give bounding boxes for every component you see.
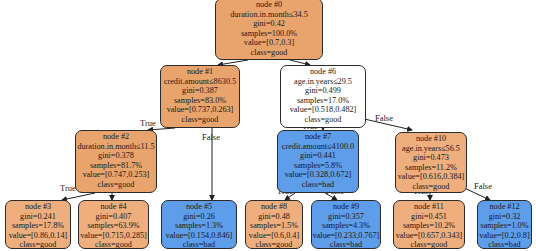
tree-node-6: node #6 age.in.years≤29.5 gini=0.499 sam… (280, 65, 366, 128)
node-class: class=good (394, 240, 464, 249)
tree-node-2: node #2 duration.in.month≤11.5 gini=0.37… (75, 130, 157, 193)
node-class: class=bad (312, 240, 380, 249)
node-gini: gini=0.407 (79, 212, 148, 222)
node-id: node #0 (216, 0, 322, 10)
node-id: node #11 (394, 202, 464, 212)
node-value: value=[0.154,0.846] (162, 231, 236, 241)
node-condition: credit.amount≤8630.5 (161, 77, 239, 87)
node-samples: samples=11.2% (396, 163, 466, 173)
node-value: value=[0.233,0.767] (312, 231, 380, 241)
tree-node-1: node #1 credit.amount≤8630.5 gini=0.387 … (160, 65, 240, 128)
node-id: node #7 (278, 132, 358, 142)
node-value: value=[0.86,0.14] (6, 231, 70, 241)
node-condition: age.in.years≤56.5 (396, 144, 466, 154)
node-class: class=good (396, 182, 466, 192)
tree-node-12: node #12 gini=0.32 samples=1.0% value=[0… (477, 200, 532, 249)
tree-node-4: node #4 gini=0.407 samples=63.9% value=[… (78, 200, 149, 249)
node-gini: gini=0.378 (76, 151, 156, 161)
node-gini: gini=0.32 (478, 212, 531, 222)
node-value: value=[0.657,0.343] (394, 231, 464, 241)
tree-node-8: node #8 gini=0.48 samples=1.5% value=[0.… (245, 200, 303, 249)
node-class: class=bad (278, 180, 358, 190)
node-samples: samples=10.2% (394, 221, 464, 231)
node-samples: samples=81.7% (76, 161, 156, 171)
node-class: class=good (161, 115, 239, 125)
node-class: class=good (246, 240, 302, 249)
node-condition: duration.in.month≤11.5 (76, 142, 156, 152)
node-id: node #6 (281, 67, 365, 77)
edge-label-true: True (140, 118, 156, 128)
node-gini: gini=0.441 (278, 151, 358, 161)
node-samples: samples=63.9% (79, 221, 148, 231)
node-samples: samples=1.3% (162, 221, 236, 231)
node-id: node #5 (162, 202, 236, 212)
node-value: value=[0.747,0.253] (76, 170, 156, 180)
edge-label-false: False (202, 132, 220, 142)
node-id: node #8 (246, 202, 302, 212)
tree-node-11: node #11 gini=0.451 samples=10.2% value=… (393, 200, 465, 249)
edge-label-true: True (60, 183, 76, 193)
node-class: class=bad (162, 240, 236, 249)
node-id: node #10 (396, 134, 466, 144)
node-value: value=[0.518,0.482] (281, 105, 365, 115)
tree-node-5: node #5 gini=0.26 samples=1.3% value=[0.… (161, 200, 237, 249)
node-samples: samples=100.0% (216, 29, 322, 39)
node-samples: samples=83.0% (161, 96, 239, 106)
node-samples: samples=1.5% (246, 221, 302, 231)
tree-node-0: node #0 duration.in.month≤34.5 gini=0.42… (215, 0, 323, 60)
edge-label-false: False (375, 113, 393, 123)
node-class: class=good (76, 180, 156, 190)
node-value: value=[0.6,0.4] (246, 231, 302, 241)
node-gini: gini=0.473 (396, 153, 466, 163)
node-id: node #1 (161, 67, 239, 77)
node-samples: samples=17.0% (281, 96, 365, 106)
node-class: class=good (6, 240, 70, 249)
node-id: node #2 (76, 132, 156, 142)
node-id: node #9 (312, 202, 380, 212)
tree-node-9: node #9 gini=0.357 samples=4.3% value=[0… (311, 200, 381, 249)
node-gini: gini=0.241 (6, 212, 70, 222)
node-id: node #4 (79, 202, 148, 212)
node-samples: samples=5.8% (278, 161, 358, 171)
node-class: class=good (79, 240, 148, 249)
node-gini: gini=0.357 (312, 212, 380, 222)
node-id: node #3 (6, 202, 70, 212)
node-value: value=[0.328,0.672] (278, 170, 358, 180)
node-samples: samples=4.3% (312, 221, 380, 231)
node-samples: samples=1.0% (478, 221, 531, 231)
decision-tree: True False True False True False True Fa… (0, 0, 536, 251)
node-value: value=[0.715,0.285] (79, 231, 148, 241)
edge-label-false: False (474, 181, 492, 191)
node-value: value=[0.616,0.384] (396, 172, 466, 182)
node-id: node #12 (478, 202, 531, 212)
node-class: class=bad (478, 240, 531, 249)
node-class: class=good (281, 115, 365, 125)
node-value: value=[0.2,0.8] (478, 231, 531, 241)
node-samples: samples=17.8% (6, 221, 70, 231)
node-value: value=[0.737,0.263] (161, 105, 239, 115)
node-condition: duration.in.month≤34.5 (216, 10, 322, 20)
tree-node-7: node #7 credit.amount≤4100.0 gini=0.441 … (277, 130, 359, 193)
node-condition: credit.amount≤4100.0 (278, 142, 358, 152)
tree-node-10: node #10 age.in.years≤56.5 gini=0.473 sa… (395, 132, 467, 193)
node-value: value=[0.7,0.3] (216, 38, 322, 48)
node-gini: gini=0.42 (216, 19, 322, 29)
node-class: class=good (216, 48, 322, 58)
tree-node-3: node #3 gini=0.241 samples=17.8% value=[… (5, 200, 71, 249)
node-gini: gini=0.48 (246, 212, 302, 222)
node-gini: gini=0.26 (162, 212, 236, 222)
node-gini: gini=0.451 (394, 212, 464, 222)
node-gini: gini=0.499 (281, 86, 365, 96)
node-gini: gini=0.387 (161, 86, 239, 96)
node-condition: age.in.years≤29.5 (281, 77, 365, 87)
